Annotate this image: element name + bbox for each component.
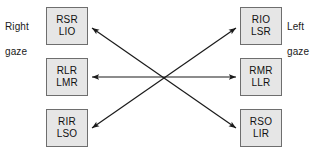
- right-gaze-label: Right gaze: [5, 8, 45, 58]
- muscle-box-left-bottom-line1: RIR: [58, 116, 76, 129]
- left-gaze-label: Left gaze: [287, 8, 323, 58]
- muscle-box-right-bottom: RSO LIR: [240, 109, 282, 147]
- connector-diagonal-lefttop-rightbottom: [92, 28, 236, 128]
- yoke-muscle-diagram: Right gaze Left gaze RSR LIO RLR LMR RIR…: [0, 0, 323, 154]
- muscle-box-left-bottom-line2: LSO: [57, 128, 78, 141]
- muscle-box-right-top: RIO LSR: [240, 7, 282, 45]
- muscle-box-left-bottom: RIR LSO: [46, 109, 88, 147]
- muscle-box-left-mid-line2: LMR: [56, 77, 78, 90]
- muscle-box-right-mid: RMR LLR: [240, 58, 282, 96]
- muscle-box-right-mid-line1: RMR: [249, 65, 272, 78]
- muscle-box-right-bottom-line2: LIR: [253, 128, 269, 141]
- connector-diagonal-leftbottom-righttop: [92, 28, 236, 128]
- muscle-box-left-top-line1: RSR: [56, 14, 78, 27]
- muscle-box-right-bottom-line1: RSO: [250, 116, 272, 129]
- left-gaze-label-line1: Left: [287, 21, 304, 32]
- muscle-box-left-mid-line1: RLR: [57, 65, 78, 78]
- muscle-box-left-top-line2: LIO: [59, 26, 76, 39]
- muscle-box-right-mid-line2: LLR: [252, 77, 271, 90]
- muscle-box-right-top-line1: RIO: [252, 14, 270, 27]
- right-gaze-label-line1: Right: [5, 21, 29, 32]
- muscle-box-right-top-line2: LSR: [251, 26, 271, 39]
- right-gaze-label-line2: gaze: [5, 46, 27, 57]
- muscle-box-left-mid: RLR LMR: [46, 58, 88, 96]
- left-gaze-label-line2: gaze: [287, 46, 309, 57]
- muscle-box-left-top: RSR LIO: [46, 7, 88, 45]
